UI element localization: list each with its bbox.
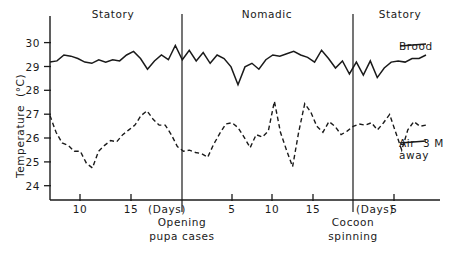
event-label-opening-pupa-cases-line1: Opening xyxy=(132,216,232,228)
y-tick-label-24: 24 xyxy=(12,180,40,192)
chart-figure: Temperature (°C) 30 29 28 27 26 25 24 10… xyxy=(0,0,464,257)
series-label-air-line2: away xyxy=(399,149,429,161)
y-tick-label-29: 29 xyxy=(12,61,40,73)
x-tick-label-10-second: 10 xyxy=(258,203,286,215)
event-label-cocoon-spinning-line1: Cocoon xyxy=(303,216,403,228)
x-tick-label-15-first: 15 xyxy=(117,203,145,215)
series-line-air-3m-away xyxy=(50,101,426,168)
series-label-air-line1: Air 3 M xyxy=(399,137,444,149)
phase-label-statory-left: Statory xyxy=(73,8,153,20)
y-tick-label-27: 27 xyxy=(12,108,40,120)
phase-label-nomadic: Nomadic xyxy=(227,8,307,20)
x-tick-label-5-second: 5 xyxy=(218,203,246,215)
y-tick-label-30: 30 xyxy=(12,37,40,49)
y-tick-label-26: 26 xyxy=(12,132,40,144)
series-line-brood xyxy=(50,45,426,84)
event-label-cocoon-spinning-line2: spinning xyxy=(303,230,403,242)
y-tick-label-25: 25 xyxy=(12,156,40,168)
x-tick-label-10-first: 10 xyxy=(66,203,94,215)
x-tick-label-15-second: 15 xyxy=(299,203,327,215)
y-tick-label-28: 28 xyxy=(12,84,40,96)
x-tick-label-5-third: 5 xyxy=(380,203,408,215)
event-label-opening-pupa-cases-line2: pupa cases xyxy=(132,230,232,242)
phase-label-statory-right: Statory xyxy=(360,8,440,20)
x-axis-days-label-first: (Days) xyxy=(148,203,186,215)
series-label-brood: Brood xyxy=(399,40,433,52)
